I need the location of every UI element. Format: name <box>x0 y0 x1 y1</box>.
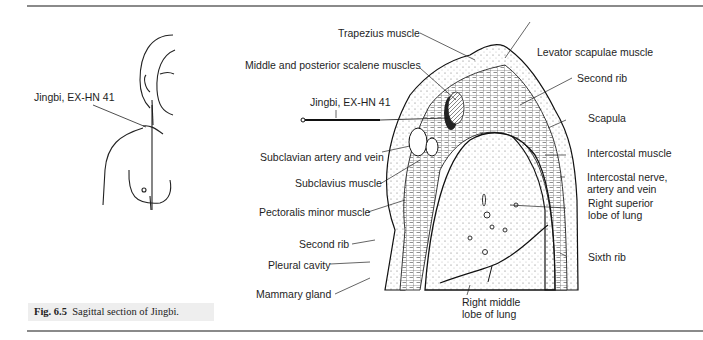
label-intercostal-nerve-1: Intercostal nerve, <box>587 171 668 183</box>
label-subclavius: Subclavius muscle <box>295 177 382 189</box>
label-superior-lobe-1: Right superior <box>588 197 653 209</box>
body-sketch-jingbi-label: Jingbi, EX-HN 41 <box>34 91 115 103</box>
label-levator: Levator scapulae muscle <box>537 46 653 58</box>
label-mammary: Mammary gland <box>256 288 331 300</box>
label-jingbi: Jingbi, EX-HN 41 <box>310 96 391 108</box>
label-intercostal-muscle: Intercostal muscle <box>587 147 672 159</box>
label-superior-lobe-2: lobe of lung <box>588 209 642 221</box>
label-sixth-rib: Sixth rib <box>588 251 626 263</box>
label-second-rib-top: Second rib <box>577 72 627 84</box>
caption-text: Sagittal section of Jingbi. <box>72 306 179 317</box>
label-pleural: Pleural cavity <box>268 259 330 271</box>
sagittal-section-drawing <box>301 45 578 290</box>
figure-caption: Fig. 6.5 Sagittal section of Jingbi. <box>28 303 214 321</box>
human-torso-sketch <box>93 35 175 210</box>
label-middle-lobe-2: lobe of lung <box>462 308 516 320</box>
label-trapezius: Trapezius muscle <box>338 27 420 39</box>
label-scapula: Scapula <box>588 112 626 124</box>
label-intercostal-nerve-2: artery and vein <box>587 183 656 195</box>
label-subclavian: Subclavian artery and vein <box>260 151 384 163</box>
caption-number: Fig. 6.5 <box>34 306 67 317</box>
label-pectoralis: Pectoralis minor muscle <box>259 206 370 218</box>
label-scalene: Middle and posterior scalene muscles <box>245 59 421 71</box>
label-middle-lobe-1: Right middle <box>462 296 520 308</box>
label-second-rib-bottom: Second rib <box>299 238 349 250</box>
